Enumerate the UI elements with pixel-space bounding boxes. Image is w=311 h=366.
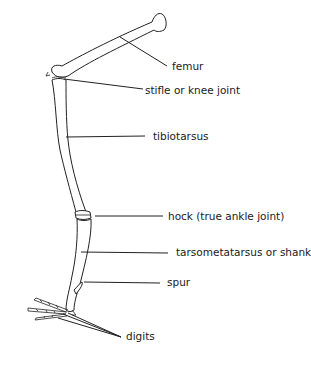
tibiotarsus-bone (52, 79, 86, 214)
tarsometatarsus-bone (66, 219, 91, 312)
digit-rear (72, 310, 76, 315)
leader-femur (120, 37, 167, 66)
femur-bone (52, 13, 167, 77)
label-stifle: stifle or knee joint (145, 84, 240, 96)
label-tarsometatarsus: tarsometatarsus or shank (176, 246, 311, 258)
knee-cap (46, 72, 50, 76)
leg-skeleton-illustration (0, 0, 311, 366)
digit-2 (28, 308, 67, 314)
label-hock: hock (true ankle joint) (168, 210, 284, 222)
label-spur: spur (167, 276, 190, 288)
leader-tarsometatarsus (81, 252, 168, 253)
leader-spur (84, 282, 160, 283)
digit-1 (34, 298, 68, 312)
bird-leg-diagram: femur stifle or knee joint tibiotarsus h… (0, 0, 311, 366)
label-tibiotarsus: tibiotarsus (153, 130, 209, 142)
label-digits: digits (126, 330, 155, 342)
leader-stifle (64, 79, 143, 89)
leader-digits-3 (68, 313, 121, 337)
leader-digits-1 (58, 318, 121, 337)
leader-tibiotarsus (66, 136, 145, 137)
label-femur: femur (172, 60, 203, 72)
